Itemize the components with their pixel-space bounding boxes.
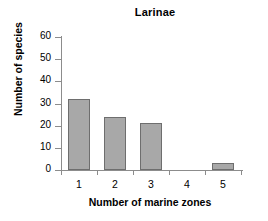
x-tick <box>205 170 206 175</box>
chart-title: Larinae <box>60 6 250 18</box>
x-tick <box>133 170 134 175</box>
x-tick <box>61 170 62 175</box>
y-tick-label: 60 <box>40 30 51 41</box>
y-axis-title: Number of species <box>12 9 24 129</box>
x-axis-title: Number of marine zones <box>55 196 245 208</box>
x-tick-label: 3 <box>133 178 169 190</box>
bar <box>212 163 234 170</box>
x-tick-label: 4 <box>169 178 205 190</box>
x-tick <box>169 170 170 175</box>
plot-area <box>61 37 241 170</box>
y-tick-label: 40 <box>40 74 51 85</box>
bar <box>68 99 90 170</box>
y-tick-label: 20 <box>40 119 51 130</box>
bar-chart: Larinae Number of species 0102030405060 … <box>0 0 268 221</box>
y-tick-label: 0 <box>45 163 51 174</box>
y-tick-label: 50 <box>40 52 51 63</box>
x-tick <box>241 170 242 175</box>
bar <box>104 117 126 170</box>
x-axis-line <box>61 170 243 171</box>
x-tick-label: 5 <box>205 178 241 190</box>
bar <box>140 123 162 170</box>
y-tick-label: 30 <box>40 97 51 108</box>
x-tick <box>97 170 98 175</box>
y-tick-label: 10 <box>40 141 51 152</box>
x-tick-label: 1 <box>61 178 97 190</box>
x-tick-label: 2 <box>97 178 133 190</box>
